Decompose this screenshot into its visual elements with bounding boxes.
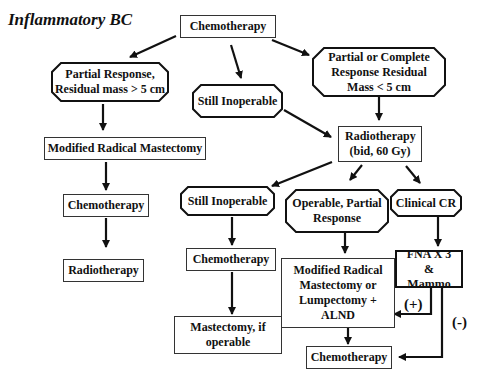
node-fna-mammo: FNA X 3 & Mammo: [395, 250, 463, 288]
node-label: Chemotherapy: [190, 19, 267, 34]
node-label: Modified Radical Mastectomy or Lumpectom…: [288, 263, 388, 323]
node-chemotherapy-start: Chemotherapy: [180, 15, 276, 38]
node-chemotherapy-bottom: Chemotherapy: [306, 346, 392, 369]
node-label: Partial Response, Residual mass > 5 cm: [54, 67, 166, 97]
node-label: Chemotherapy: [193, 252, 270, 267]
node-label: Clinical CR: [396, 196, 456, 211]
node-label: Chemotherapy: [68, 198, 145, 213]
node-chemotherapy-mid: Chemotherapy: [186, 248, 276, 271]
node-label: Chemotherapy: [311, 350, 388, 365]
node-label: Partial or Complete Response Residual Ma…: [317, 50, 441, 95]
edge-label-negative: (-): [452, 314, 467, 331]
node-mastectomy-if-operable: Mastectomy, if operable: [174, 316, 282, 354]
node-label: Mastectomy, if operable: [183, 320, 273, 350]
node-label: Operable, Partial Response: [291, 196, 383, 226]
node-partial-complete-lt5: Partial or Complete Response Residual Ma…: [312, 47, 446, 97]
node-radiotherapy-left: Radiotherapy: [63, 259, 144, 282]
node-partial-response-gt5: Partial Response, Residual mass > 5 cm: [51, 62, 169, 102]
node-chemotherapy-left: Chemotherapy: [63, 194, 149, 217]
node-label: Radiotherapy: [68, 263, 139, 278]
node-clinical-cr: Clinical CR: [390, 189, 462, 217]
node-label: Still Inoperable: [188, 194, 268, 209]
node-label: Radiotherapy (bid, 60 Gy): [345, 129, 415, 159]
node-label: Still Inoperable: [198, 94, 278, 109]
node-radiotherapy-bid: Radiotherapy (bid, 60 Gy): [338, 126, 422, 162]
node-still-inoperable-1: Still Inoperable: [192, 84, 283, 118]
node-label: FNA X 3 & Mammo: [401, 247, 457, 292]
node-modified-radical-mastectomy-left: Modified Radical Mastectomy: [44, 137, 206, 160]
node-operable-partial-response: Operable, Partial Response: [285, 189, 389, 233]
node-label: Modified Radical Mastectomy: [48, 141, 203, 156]
edge-label-positive: (+): [404, 296, 423, 313]
node-mrm-or-lumpectomy-alnd: Modified Radical Mastectomy or Lumpectom…: [281, 258, 395, 328]
node-still-inoperable-2: Still Inoperable: [180, 186, 275, 216]
